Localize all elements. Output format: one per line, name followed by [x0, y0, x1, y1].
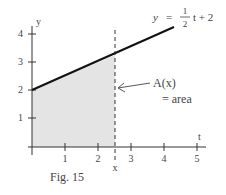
svg-text:t + 2: t + 2: [193, 11, 213, 23]
annotation-ax: A(x): [153, 76, 176, 90]
x-marker-label: x: [113, 162, 118, 173]
svg-text:=: =: [166, 11, 172, 23]
y-tick-labels: 1 2 3 4: [18, 28, 23, 123]
y-axis-label: y: [36, 16, 41, 27]
figure-caption: Fig. 15: [50, 170, 84, 184]
x-tick-labels: 1 2 3 4 5: [63, 153, 200, 164]
svg-text:4: 4: [18, 28, 23, 39]
svg-text:3: 3: [18, 56, 23, 67]
svg-text:1: 1: [18, 112, 23, 123]
svg-text:2: 2: [96, 153, 101, 164]
svg-text:3: 3: [129, 153, 134, 164]
x-axis-label: t: [198, 131, 201, 142]
annotation-area: = area: [162, 92, 192, 106]
svg-text:y: y: [152, 11, 158, 23]
svg-text:5: 5: [195, 153, 200, 164]
svg-text:2: 2: [18, 84, 23, 95]
equation-label: y = 1 2 t + 2: [152, 6, 213, 29]
shaded-area: [32, 55, 115, 147]
svg-text:2: 2: [183, 19, 188, 29]
svg-text:1: 1: [63, 153, 68, 164]
figure-canvas: 1 2 3 4 5 1 2 3 4 y t x y = 1 2 t + 2 A(…: [0, 0, 226, 195]
svg-text:4: 4: [162, 153, 167, 164]
svg-text:1: 1: [183, 6, 188, 16]
arrow-icon: [118, 83, 150, 92]
